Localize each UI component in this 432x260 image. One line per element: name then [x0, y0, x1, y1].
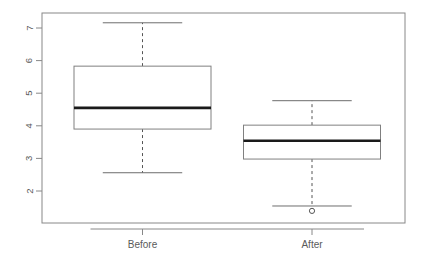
- y-axis-tick-label: 2: [24, 188, 35, 193]
- y-axis-tick-label: 4: [24, 123, 35, 128]
- x-axis: BeforeAfter: [91, 229, 365, 250]
- y-axis-tick-label: 7: [24, 25, 35, 30]
- y-axis: 234567: [24, 25, 43, 193]
- boxplot-canvas: 234567 BeforeAfter: [0, 0, 432, 260]
- box-series: [74, 23, 381, 214]
- box-rect: [74, 66, 211, 129]
- boxplot-figure: 234567 BeforeAfter: [0, 0, 432, 260]
- y-axis-tick-label: 3: [24, 156, 35, 161]
- y-axis-tick-label: 5: [24, 91, 35, 96]
- x-axis-category-label: After: [301, 239, 323, 250]
- box-group: [74, 23, 211, 173]
- box-group: [244, 101, 381, 214]
- box-rect: [244, 125, 381, 159]
- y-axis-tick-label: 6: [24, 58, 35, 63]
- outlier-point: [309, 208, 314, 213]
- x-axis-category-label: Before: [128, 239, 158, 250]
